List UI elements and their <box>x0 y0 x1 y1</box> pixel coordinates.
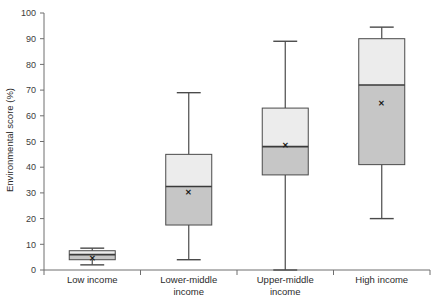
mean-marker: ✕ <box>89 254 96 263</box>
box-plot-group: ✕ <box>69 248 115 265</box>
y-tick-label-40: 40 <box>26 162 36 172</box>
mean-marker: ✕ <box>378 99 385 108</box>
box-upper-quartile <box>359 39 405 85</box>
y-tick-label-100: 100 <box>21 8 36 18</box>
mean-marker: ✕ <box>185 188 192 197</box>
box-upper-quartile <box>166 154 212 186</box>
y-tick-label-90: 90 <box>26 34 36 44</box>
y-tick-label-60: 60 <box>26 111 36 121</box>
x-axis-category-label: High income <box>355 274 408 285</box>
y-axis-title-text: Environmental score (%) <box>4 88 15 192</box>
y-tick-label-10: 10 <box>26 240 36 250</box>
x-axis-category-label: income <box>270 286 301 297</box>
x-axis-category-label: Upper-middle <box>257 274 314 285</box>
y-tick-label-20: 20 <box>26 214 36 224</box>
y-tick-label-50: 50 <box>26 137 36 147</box>
y-tick-label-0: 0 <box>31 265 36 275</box>
y-tick-label-70: 70 <box>26 85 36 95</box>
y-axis-ticks: 0102030405060708090100 <box>21 8 44 275</box>
x-axis-category-label: Low income <box>67 274 118 285</box>
plot-area: Environmental score (%) 0102030405060708… <box>0 0 438 300</box>
box-plot-group: ✕ <box>262 41 308 270</box>
x-axis-category-label: Lower-middle <box>160 274 217 285</box>
y-tick-label-80: 80 <box>26 60 36 70</box>
y-tick-label-30: 30 <box>26 188 36 198</box>
y-axis-title: Environmental score (%) <box>4 88 15 192</box>
box-series: ✕✕✕✕ <box>69 27 405 270</box>
x-axis-labels: Low incomeLower-middleincomeUpper-middle… <box>67 274 408 297</box>
box-plot-group: ✕ <box>166 93 212 260</box>
box-plot-group: ✕ <box>359 27 405 218</box>
box-lower-quartile <box>262 147 308 175</box>
x-axis-category-label: income <box>173 286 204 297</box>
box-lower-quartile <box>359 85 405 165</box>
box-plot-chart: Environmental score (%) 0102030405060708… <box>0 0 438 300</box>
mean-marker: ✕ <box>282 141 289 150</box>
